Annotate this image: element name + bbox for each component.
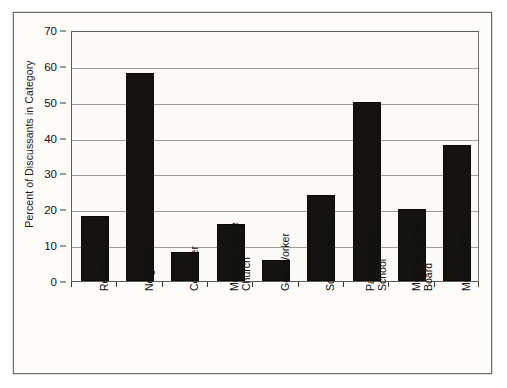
x-axis-tick-label-text: Parent Same School	[365, 230, 388, 291]
x-axis-tick-mark	[478, 282, 479, 287]
y-axis-tick-mark	[60, 31, 66, 32]
x-axis-tick-mark	[252, 282, 253, 287]
x-axis-tick-label: Member Same Church	[229, 207, 245, 291]
y-axis-tick-label: 20	[44, 204, 57, 216]
x-axis-tick-label: Coworker	[189, 207, 205, 291]
x-axis-tick-label-text: Member PTA	[461, 230, 473, 291]
x-axis-tick-label: Relative	[99, 207, 115, 291]
x-axis-tick-label: Member School Board	[411, 207, 427, 291]
x-axis-tick-mark	[343, 282, 344, 287]
x-axis-tick-mark	[116, 282, 117, 287]
x-axis-tick-label-text: Coworker	[189, 246, 201, 291]
y-axis-tick-label: 60	[44, 61, 57, 73]
x-axis-tick-label-text: Gov. Worker	[280, 233, 292, 291]
y-axis-tick-label: 10	[44, 240, 57, 252]
y-axis-tick-mark	[60, 66, 66, 67]
x-axis-tick-label: Member PTA	[461, 207, 477, 291]
x-axis-tick-label-text: Member School Board	[411, 217, 434, 291]
x-axis-tick-label-text: Relative	[99, 253, 111, 291]
y-axis-tick-mark	[60, 282, 66, 283]
x-axis-tick-mark	[71, 282, 72, 287]
x-axis-tick-mark	[388, 282, 389, 287]
x-axis-tick-labels: RelativeNeighborCoworkerMember Same Chur…	[71, 289, 479, 373]
y-axis-tick-mark	[60, 138, 66, 139]
x-axis-tick-mark	[298, 282, 299, 287]
x-axis-tick-label-text: School Worker	[325, 222, 337, 291]
y-axis-tick-mark	[60, 246, 66, 247]
x-axis-tick-label-text: Neighbor	[144, 248, 156, 291]
chart-figure-frame: Percent of Discussants in Category 01020…	[13, 12, 492, 374]
x-axis-tick-label: Neighbor	[144, 207, 160, 291]
x-axis-tick-label: Parent Same School	[365, 207, 381, 291]
x-axis-tick-label-text: Member Same Church	[229, 222, 252, 291]
x-axis-tick-mark	[162, 282, 163, 287]
y-axis-tick-label: 0	[51, 276, 57, 288]
x-axis-tick-mark	[207, 282, 208, 287]
y-axis-tick-mark	[60, 174, 66, 175]
y-axis-tick-label: 70	[44, 25, 57, 37]
x-axis-tick-label: School Worker	[325, 207, 341, 291]
y-axis-tick-labels: 010203040506070	[14, 31, 66, 282]
y-axis-tick-label: 30	[44, 168, 57, 180]
y-axis-tick-label: 50	[44, 97, 57, 109]
x-axis-tick-label: Gov. Worker	[280, 207, 296, 291]
y-axis-tick-mark	[60, 102, 66, 103]
y-axis-tick-label: 40	[44, 133, 57, 145]
y-axis-tick-mark	[60, 210, 66, 211]
